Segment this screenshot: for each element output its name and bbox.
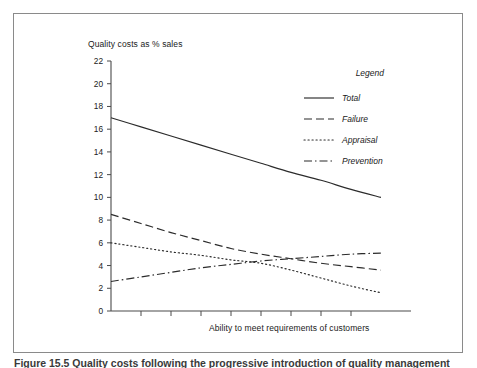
y-tick-label: 12 [94, 170, 104, 180]
series-line-prevention [111, 253, 381, 281]
legend-label-appraisal: Appraisal [341, 135, 379, 145]
y-tick-label: 18 [94, 101, 104, 111]
x-tick-marks [141, 311, 351, 316]
y-tick-label: 0 [98, 306, 103, 316]
y-tick-label: 2 [98, 283, 103, 293]
figure-border: Quality costs as % sales Ability to meet… [13, 13, 463, 353]
chart-area: Quality costs as % sales Ability to meet… [14, 14, 464, 354]
y-tick-label: 22 [94, 56, 104, 66]
y-tick-label: 14 [94, 147, 104, 157]
x-axis [111, 311, 411, 316]
legend-label-failure: Failure [342, 114, 368, 124]
legend-label-total: Total [342, 93, 361, 103]
y-tick-label: 16 [94, 124, 104, 134]
legend-label-prevention: Prevention [342, 156, 383, 166]
legend-title: Legend [356, 68, 385, 78]
y-tick-marks [107, 61, 111, 311]
y-tick-label: 20 [94, 79, 104, 89]
chart-legend: Legend TotalFailureAppraisalPrevention [304, 68, 384, 166]
figure-caption: Figure 15.5 Quality costs following the … [14, 357, 450, 368]
series-lines [111, 118, 381, 293]
legend-items: TotalFailureAppraisalPrevention [304, 93, 383, 166]
y-axis: 0246810121416182022 [94, 56, 111, 316]
line-chart-plot: 0246810121416182022 Legend TotalFailureA… [14, 14, 464, 354]
series-line-appraisal [111, 243, 381, 293]
y-tick-labels: 0246810121416182022 [94, 56, 104, 316]
y-tick-label: 4 [98, 261, 103, 271]
y-tick-label: 10 [94, 192, 104, 202]
y-tick-label: 6 [98, 238, 103, 248]
series-line-total [111, 118, 381, 198]
y-tick-label: 8 [98, 215, 103, 225]
